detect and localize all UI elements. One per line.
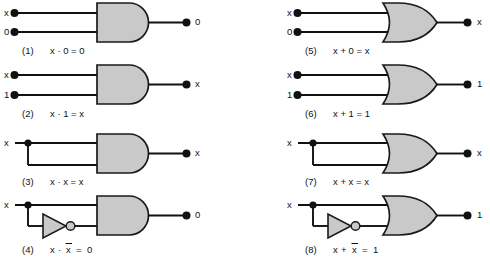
output-terminal-dot [464,150,472,158]
output-terminal-dot [183,81,191,89]
input-terminal-dot-bottom [11,91,19,99]
input-terminal-dot-top [294,71,302,79]
input-terminal-dot-bottom [294,28,302,36]
caption-expression: x · 0 = 0 [50,45,85,56]
output-label: x [195,147,200,158]
output-label: 1 [477,209,482,220]
or-gate-body [383,3,437,42]
input-label-top: x [4,7,9,18]
input-label-bottom: 1 [287,89,292,100]
not-gate-triangle [328,214,351,238]
caption-expression: x + 0 = x [333,45,370,56]
input-terminal-dot-bottom [11,28,19,36]
caption-operand-1: x [333,244,338,255]
caption-number: (3) [22,176,34,187]
caption-result: 0 [87,244,92,255]
caption-number: (8) [305,244,317,255]
circuit-5: x 0 x (5) x + 0 = x [287,3,482,56]
output-terminal-dot [183,212,191,220]
junction-dot [309,139,316,146]
input-label-top: x [287,137,292,148]
input-label-top: x [4,69,9,80]
caption-expression-group: x + x = 1 [333,244,378,255]
output-label: x [477,147,482,158]
and-gate-body [97,65,149,104]
logic-diagram-svg: x 0 0 (1) x · 0 = 0 x 1 x (2) x · 1 = x … [0,0,490,268]
caption-number: (7) [305,176,317,187]
input-label-top: x [4,137,9,148]
junction-dot [24,139,31,146]
input-terminal-dot-bottom [294,91,302,99]
output-label: 0 [195,209,200,220]
not-gate-bubble [66,222,75,231]
circuit-2: x 1 x (2) x · 1 = x [4,65,200,119]
caption-equals: = [76,244,82,255]
caption-number: (6) [305,108,317,119]
output-label: 1 [477,78,482,89]
caption-expression: x · x = x [50,176,84,187]
caption-number: (5) [305,45,317,56]
input-label-bottom: 0 [287,26,292,37]
or-gate-body [383,196,437,235]
circuit-8: x 1 (8) x + x = 1 [287,196,482,255]
input-label-top: x [287,199,292,210]
or-gate-body [383,65,437,104]
caption-number: (2) [22,108,34,119]
and-gate-body [97,134,148,173]
circuit-7: x x (7) x + x = x [287,134,482,187]
output-terminal-dot [464,19,472,27]
input-label-top: x [287,69,292,80]
caption-expression: x · 1 = x [50,108,84,119]
input-label-bottom: 1 [4,89,9,100]
input-label-bottom: 0 [4,26,9,37]
output-label: x [195,78,200,89]
caption-expression: x + x = x [333,176,369,187]
caption-operator: + [341,244,347,255]
junction-dot [24,201,31,208]
caption-operator: · [58,244,61,255]
junction-dot [309,201,316,208]
logic-gate-figure: x 0 0 (1) x · 0 = 0 x 1 x (2) x · 1 = x … [0,0,490,268]
circuit-3: x x (3) x · x = x [4,134,200,187]
caption-operand-2: x [352,244,357,255]
output-terminal-dot [183,150,191,158]
caption-expression: x + 1 = 1 [333,108,370,119]
and-gate-body [97,196,149,235]
caption-operand-1: x [50,244,55,255]
output-terminal-dot [464,81,472,89]
output-label: 0 [195,16,200,27]
output-terminal-dot [464,212,472,220]
not-gate-triangle [43,214,66,238]
input-label-top: x [287,7,292,18]
caption-result: 1 [373,244,378,255]
and-gate-body [97,3,149,42]
circuit-6: x 1 1 (6) x + 1 = 1 [287,65,482,119]
caption-equals: = [362,244,368,255]
circuit-4: x 0 (4) x · x = 0 [4,196,200,255]
circuit-1: x 0 0 (1) x · 0 = 0 [4,3,200,56]
input-terminal-dot-top [11,9,19,17]
or-gate-body [383,134,437,173]
input-terminal-dot-top [294,9,302,17]
input-label-top: x [4,199,9,210]
caption-expression-group: x · x = 0 [50,244,92,255]
not-gate-bubble [351,222,360,231]
output-label: x [477,16,482,27]
caption-number: (4) [22,244,34,255]
input-terminal-dot-top [11,71,19,79]
caption-operand-2: x [66,244,71,255]
output-terminal-dot [183,19,191,27]
caption-number: (1) [22,45,34,56]
